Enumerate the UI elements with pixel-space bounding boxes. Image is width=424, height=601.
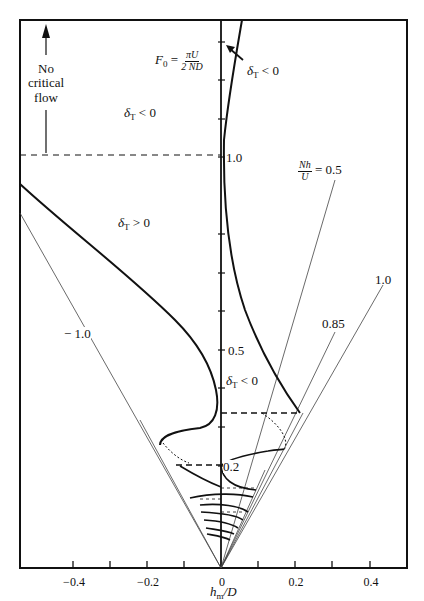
plot-frame	[20, 20, 407, 568]
x-tick-label: −0.2	[137, 575, 159, 590]
delta-lt0-top-right: δT < 0	[247, 64, 279, 80]
delta-rel: < 0	[259, 63, 279, 78]
x-tick-label: 0.4	[364, 575, 379, 590]
nh-rays	[20, 180, 383, 568]
delta-gt0-label: δT > 0	[118, 216, 150, 232]
nh-fraction: NhU	[298, 160, 312, 182]
arrow-up-icon	[42, 24, 50, 38]
no-critical-line2: critical	[26, 76, 66, 90]
axis-label-1.0: 1.0	[226, 151, 242, 164]
f0-num: πU	[185, 50, 199, 62]
ray-minus-1.0	[20, 213, 221, 568]
x-axis-sub: m	[217, 591, 224, 601]
x-axis-title: hm/D	[210, 585, 237, 601]
ray-label-1.0: 1.0	[375, 273, 391, 286]
nh-value: = 0.5	[312, 162, 342, 177]
no-critical-line1: No	[26, 62, 66, 76]
f0-den: 2 ND	[181, 62, 202, 73]
delta-lt0-mid-axis: δT < 0	[226, 374, 258, 390]
x-tick-label: −0.4	[63, 575, 85, 590]
delta-rel: < 0	[238, 373, 258, 388]
nh-num: Nh	[298, 160, 312, 172]
nh-u-label: NhU = 0.5	[298, 160, 342, 182]
delta-rel: > 0	[130, 215, 150, 230]
ray-label-0.85: 0.85	[322, 317, 345, 330]
ray-label-minus-1.0: − 1.0	[64, 327, 91, 340]
f0-eq: =	[167, 52, 181, 67]
delta-rel: < 0	[136, 105, 156, 120]
f0-symbol: F	[155, 52, 163, 67]
f0-formula: F0 = πU2 ND	[155, 50, 203, 72]
ray-1.0	[221, 285, 383, 568]
delta-lt0-upper-left: δT < 0	[124, 106, 156, 122]
x-tick-label: 0.2	[289, 575, 304, 590]
axis-label-0.2: 0.2	[223, 460, 239, 473]
x-axis-rest: /D	[224, 584, 237, 599]
dotted-transition	[163, 413, 286, 463]
f0-fraction: πU2 ND	[181, 50, 202, 72]
no-critical-flow-label: No critical flow	[26, 62, 66, 105]
no-critical-line3: flow	[26, 91, 66, 105]
axis-label-0.5: 0.5	[228, 344, 244, 357]
nh-den: U	[301, 172, 308, 183]
